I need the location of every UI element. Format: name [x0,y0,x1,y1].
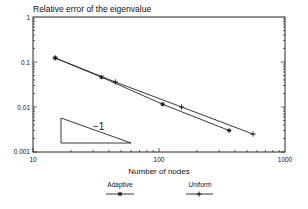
star-marker-icon [118,192,122,196]
plus-marker-icon [179,104,184,109]
x-axis-ticks [33,148,279,152]
legend-label-uniform: Uniform [189,181,212,188]
plus-marker-icon [53,55,58,60]
y-tick-label-1: 1 [26,14,30,21]
y-tick-label-0.001: 0.001 [14,148,31,155]
star-marker-icon [227,128,231,132]
x-tick-label-1000: 1000 [278,156,293,163]
star-marker-icon [161,102,165,106]
x-axis-label: Number of nodes [128,167,189,176]
chart: Relative error of the eigenvalue 1 0.1 0… [0,0,308,209]
series-line-uniform [55,58,253,134]
series-layer [53,55,256,136]
plus-marker-icon [197,192,202,197]
legend-label-adaptive: Adaptive [107,181,133,189]
y-tick-label-0.1: 0.1 [21,59,30,66]
x-tick-label-10: 10 [29,156,37,163]
chart-title: Relative error of the eigenvalue [33,4,151,14]
slope-label: −1 [93,121,105,132]
x-tick-label-100: 100 [154,156,165,163]
plus-marker-icon [250,131,255,136]
y-tick-label-0.01: 0.01 [17,104,30,111]
